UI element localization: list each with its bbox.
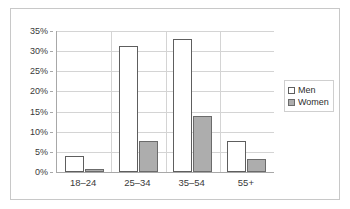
x-axis-tick-label: 35–54: [178, 177, 204, 188]
y-axis-tick-label: 20%: [30, 86, 48, 96]
y-axis-tick-label: 15%: [30, 107, 48, 117]
legend-label: Women: [298, 97, 329, 107]
y-axis-tick-mark: [50, 112, 53, 113]
y-axis-tick-mark: [50, 91, 53, 92]
bar-women-3: [247, 159, 266, 172]
plot-area: [56, 31, 274, 173]
chart-legend: MenWomen: [284, 80, 334, 112]
bar-men-2: [173, 39, 192, 172]
legend-label: Men: [298, 85, 316, 95]
y-axis-tick-label: 0%: [35, 167, 48, 177]
x-axis-tick-label: 25–34: [124, 177, 150, 188]
x-axis-tick-label: 18–24: [70, 177, 96, 188]
bar-women-0: [85, 169, 104, 172]
y-axis-tick-mark: [50, 172, 53, 173]
y-axis-tick-label: 5%: [35, 147, 48, 157]
y-axis-tick-mark: [50, 71, 53, 72]
bar-men-3: [227, 141, 246, 172]
bar-men-1: [119, 46, 138, 172]
y-axis-tick-label: 25%: [30, 66, 48, 76]
bars-layer: [57, 31, 274, 172]
chart-frame: 0%5%10%15%20%25%30%35% 18–2425–3435–5455…: [10, 8, 340, 200]
y-axis-tick-label: 35%: [30, 26, 48, 36]
y-axis-tick-mark: [50, 31, 53, 32]
y-axis: 0%5%10%15%20%25%30%35%: [11, 31, 53, 173]
y-axis-tick-label: 10%: [30, 127, 48, 137]
y-axis-tick-mark: [50, 51, 53, 52]
x-axis: 18–2425–3435–5455+: [56, 177, 274, 195]
legend-item-men[interactable]: Men: [288, 84, 329, 96]
men-swatch-icon: [288, 87, 295, 94]
women-swatch-icon: [288, 99, 295, 106]
y-axis-tick-mark: [50, 132, 53, 133]
bar-women-1: [139, 141, 158, 172]
bar-women-2: [193, 116, 212, 172]
x-axis-tick-label: 55+: [238, 177, 254, 188]
legend-item-women[interactable]: Women: [288, 96, 329, 108]
y-axis-tick-mark: [50, 152, 53, 153]
bar-men-0: [65, 156, 84, 172]
y-axis-tick-label: 30%: [30, 46, 48, 56]
